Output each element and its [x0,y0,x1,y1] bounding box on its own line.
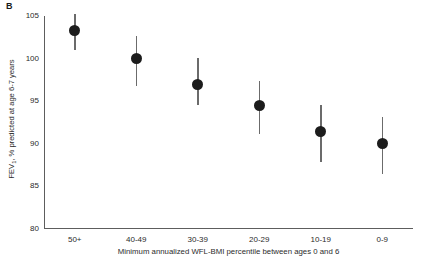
y-axis-tick: 90 [4,139,44,149]
data-point-marker[interactable] [192,79,203,90]
y-axis-tick: 100 [4,54,44,64]
y-axis-title-prefix: FEV [7,164,16,179]
x-axis-tick-label: 20-29 [224,235,294,245]
y-axis-title-text: FEV1, % predicted at age 6-7 years [7,59,17,178]
y-axis-title: FEV1, % predicted at age 6-7 years [5,14,19,224]
x-axis-tick-label: 50+ [40,235,110,245]
y-axis-tick: 95 [4,96,44,106]
x-axis-tick-label: 30-39 [163,235,233,245]
data-point-marker[interactable] [69,25,80,36]
y-axis-title-subscript: 1 [11,161,17,164]
y-axis-line [44,16,45,229]
plot-area: 10510095908580 50+40-4930-3920-2910-190-… [44,16,413,229]
y-axis-tick: 85 [4,181,44,191]
data-point-marker[interactable] [377,138,388,149]
y-axis-tick-label: 105 [4,11,44,21]
data-point-marker[interactable] [315,126,326,137]
figure-panel-b: B FEV1, % predicted at age 6-7 years 105… [0,0,421,266]
y-axis-tick: 80 [4,224,44,234]
x-axis-tick-label: 40-49 [101,235,171,245]
data-point-marker[interactable] [131,53,142,64]
y-axis-tick-label: 95 [4,96,44,106]
y-axis-tick-label: 85 [4,181,44,191]
x-axis-tick-label: 10-19 [286,235,356,245]
x-axis-title: Minimum annualized WFL-BMI percentile be… [44,247,413,257]
x-axis-tick-label: 0-9 [347,235,417,245]
y-axis-tick-label: 80 [4,224,44,234]
data-point-marker[interactable] [254,100,265,111]
x-axis-line [44,228,413,229]
y-axis-tick: 105 [4,11,44,21]
y-axis-tick-label: 90 [4,139,44,149]
y-axis-tick-label: 100 [4,54,44,64]
